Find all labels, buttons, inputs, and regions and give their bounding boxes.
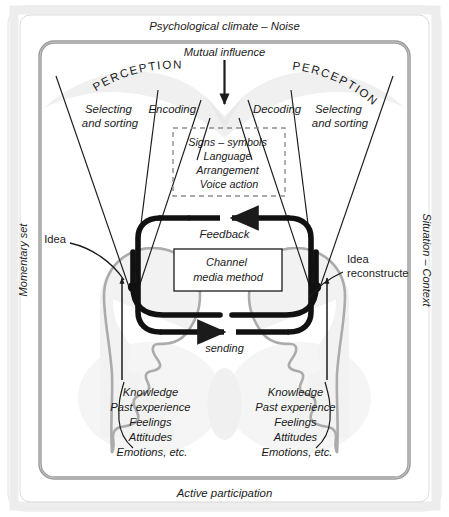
label-decoding: Decoding	[253, 103, 302, 115]
diagram-canvas: Psychological climate – Noise Active par…	[0, 0, 449, 517]
label-mutual-influence: Mutual influence	[184, 46, 265, 58]
label-sending: sending	[205, 342, 244, 354]
label-idea-left: Idea	[44, 233, 67, 245]
label-situation-context: Situation – Context	[421, 214, 433, 308]
label-momentary-set: Momentary set	[17, 223, 29, 297]
label-feedback: Feedback	[199, 228, 250, 240]
label-active-participation: Active participation	[176, 487, 273, 499]
label-psychological-climate: Psychological climate – Noise	[149, 20, 300, 32]
communication-model-diagram: Psychological climate – Noise Active par…	[0, 0, 449, 517]
label-encoding: Encoding	[149, 103, 197, 115]
